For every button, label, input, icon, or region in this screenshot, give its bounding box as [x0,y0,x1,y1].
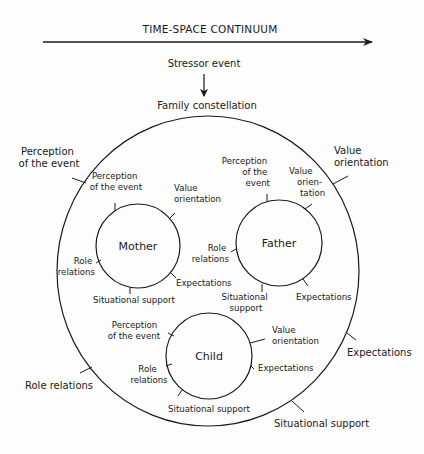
child-role-label: Role relations [130,364,168,385]
time-space-title: TIME-SPACE CONTINUUM [142,23,278,35]
outer-role-label: Role relations [25,380,93,391]
father-perception-label: Perception of the event [222,156,271,188]
outer-value-label: Value orientation [334,145,389,168]
outer-tick-situational [292,401,304,412]
father-situational-label: Situational support [222,292,271,313]
outer-tick-role [80,367,92,373]
outer-expectations-label: Expectations [347,347,412,358]
mother-perception-label: Perception of the event [90,171,143,192]
child-tick-expectations [251,366,254,369]
outer-tick-value [333,176,348,184]
father-tick-role [231,249,236,252]
outer-perception-label: Perception of the event [19,146,80,169]
child-tick-value [250,339,265,343]
family-circle [57,116,359,426]
member-father: Father Perception of the event Value ori… [192,156,352,313]
father-role-label: Role relations [192,243,230,264]
member-mother: Mother Perception of the event Value ori… [58,171,232,305]
child-perception-label: Perception of the event [108,320,161,341]
family-stress-diagram: TIME-SPACE CONTINUUM Stressor event Fami… [0,0,424,454]
father-expectations-label: Expectations [296,292,352,302]
mother-label: Mother [119,240,158,253]
stressor-event-label: Stressor event [168,58,241,69]
family-constellation-label: Family constellation [157,100,256,111]
child-label: Child [195,350,223,363]
outer-tick-perception [72,178,86,183]
member-child: Child Perception of the event Value orie… [108,313,319,414]
outer-tick-expectations [347,333,356,340]
father-tick-value [305,204,312,209]
child-tick-situational [178,390,182,396]
child-expectations-label: Expectations [258,363,314,373]
mother-role-label: Role relations [58,256,96,277]
mother-tick-value [169,213,175,219]
mother-situational-label: Situational support [93,295,175,305]
outer-situational-label: Situational support [274,418,369,429]
father-tick-expectations [303,279,308,286]
father-value-label: Value orien- tation [289,166,325,198]
child-value-label: Value orientation [272,325,319,346]
mother-expectations-label: Expectations [176,278,232,288]
mother-value-label: Value orientation [174,183,221,204]
father-label: Father [262,237,297,250]
child-situational-label: Situational support [168,404,250,414]
